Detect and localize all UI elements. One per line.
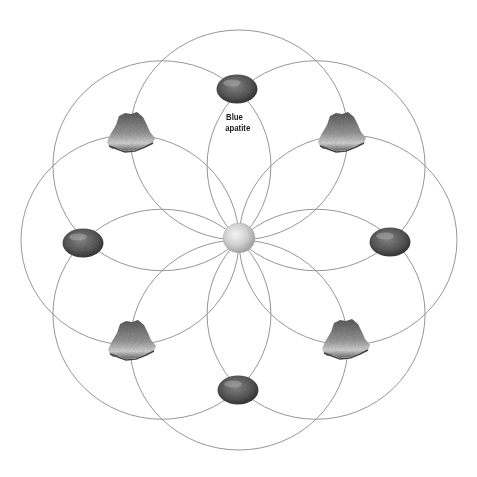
- grid-circle: [239, 135, 457, 345]
- crystal-cluster-top-right: [318, 112, 366, 152]
- tumbled-stone-bottom: [218, 376, 259, 405]
- grid-circle: [130, 240, 348, 450]
- crystal-cluster-bottom-right: [322, 319, 370, 359]
- label-line-1: Blue: [226, 111, 250, 122]
- center-sphere-stone: [223, 223, 255, 253]
- tumbled-stone-right: [370, 228, 411, 257]
- grid-circle: [130, 30, 348, 240]
- grid-circle: [21, 135, 239, 345]
- label-line-2: apatite: [225, 122, 250, 133]
- crystal-grid-svg: [0, 0, 477, 477]
- crystal-grid-diagram: Blue apatite: [0, 0, 477, 477]
- crystal-cluster-bottom-left: [108, 320, 156, 360]
- stone-label-blue-apatite: Blue apatite: [226, 111, 250, 133]
- tumbled-stone-top: [217, 75, 258, 104]
- crystal-cluster-top-left: [107, 112, 155, 152]
- tumbled-stone-left: [63, 229, 104, 258]
